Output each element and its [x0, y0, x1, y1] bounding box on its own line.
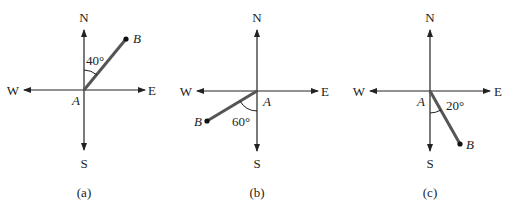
label-north: N: [252, 10, 262, 25]
label-origin: A: [262, 94, 271, 109]
point-b: [123, 36, 128, 41]
label-west: W: [353, 84, 366, 99]
angle-arc: [430, 110, 441, 113]
label-origin: A: [416, 94, 425, 109]
label-east: E: [494, 84, 502, 99]
caption: (b): [249, 185, 264, 200]
panel-a: N S W E A B 40° (a): [7, 10, 156, 200]
label-west: W: [180, 84, 193, 99]
label-south: S: [80, 156, 87, 171]
label-angle: 20°: [446, 98, 464, 113]
label-south: S: [253, 156, 260, 171]
panel-b: N S W E A B 60° (b): [180, 10, 329, 200]
label-angle: 60°: [232, 114, 250, 129]
label-south: S: [426, 156, 433, 171]
panel-c: N S W E A B 20° (c): [353, 10, 502, 200]
label-west: W: [7, 83, 20, 98]
bearing-diagram: N S W E A B 40° (a) N S W E A B 60° (b) …: [0, 0, 506, 207]
label-east: E: [321, 84, 329, 99]
point-b: [457, 141, 462, 146]
label-endpoint: B: [133, 31, 141, 46]
point-b: [204, 118, 209, 123]
label-east: E: [148, 83, 156, 98]
label-endpoint: B: [194, 114, 202, 129]
angle-arc: [240, 101, 257, 111]
caption: (c): [423, 185, 437, 200]
label-origin: A: [71, 93, 80, 108]
label-angle: 40°: [86, 53, 104, 68]
label-north: N: [79, 10, 89, 25]
label-north: N: [425, 10, 435, 25]
caption: (a): [77, 185, 91, 200]
label-endpoint: B: [466, 137, 474, 152]
